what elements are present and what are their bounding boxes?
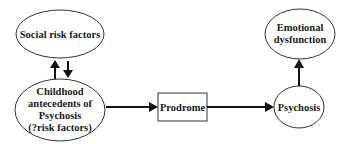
node-childhood-antecedents: Childhood antecedents of Psychosis (?ris…: [15, 79, 105, 141]
node-social-risk-factors: Social risk factors: [16, 10, 104, 58]
node-emotional-dysfunction: Emotional dysfunction: [265, 9, 335, 59]
right-arrow-icon: [265, 102, 274, 112]
node-psychosis: Psychosis: [274, 86, 324, 128]
childhood-label-line4: (?risk factors): [28, 122, 92, 134]
up-arrow-icon: [294, 59, 304, 68]
social-risk-factors-label: Social risk factors: [20, 29, 101, 40]
edge-childhood-to-prodrome: [106, 102, 158, 112]
psychosis-label: Psychosis: [278, 102, 321, 113]
childhood-label-line3: Psychosis: [39, 110, 82, 121]
emotional-label-line2: dysfunction: [274, 34, 327, 45]
prodrome-label: Prodrome: [160, 102, 205, 113]
down-arrow-icon: [63, 70, 73, 78]
emotional-label-line1: Emotional: [277, 22, 324, 33]
edge-childhood-to-social: [50, 60, 60, 79]
edge-prodrome-to-psychosis: [207, 102, 274, 112]
up-arrow-icon: [50, 60, 60, 68]
childhood-label-line1: Childhood: [36, 86, 83, 97]
childhood-label-line2: antecedents of: [28, 98, 92, 109]
node-prodrome: Prodrome: [158, 93, 207, 121]
edge-psychosis-to-emotional: [294, 59, 304, 86]
edge-social-to-childhood: [63, 61, 73, 78]
right-arrow-icon: [149, 102, 158, 112]
diagram-canvas: Social risk factors Childhood antecedent…: [0, 0, 346, 144]
